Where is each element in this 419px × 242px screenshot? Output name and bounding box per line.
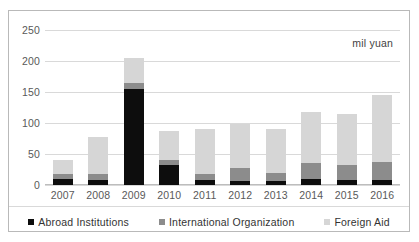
x-axis-tick-label: 2012 [223,189,259,201]
x-axis-tick-label: 2015 [329,189,365,201]
x-axis-tick-label: 2014 [294,189,330,201]
legend-item[interactable]: Foreign Aid [324,216,389,228]
legend-item-label: Foreign Aid [334,216,389,228]
bar-segment[interactable] [337,165,357,180]
bar-segment[interactable] [301,112,321,163]
x-axis-tick-label: 2009 [116,189,152,201]
y-axis-tick-label: 200 [22,55,40,67]
bar-segment[interactable] [195,180,215,185]
x-axis-tick-label: 2011 [187,189,223,201]
y-axis-tick-label: 50 [28,148,40,160]
bar-segment[interactable] [159,165,179,185]
chart-legend: Abroad InstitutionsInternational Organiz… [9,206,409,234]
legend-item-label: International Organization [169,216,294,228]
x-axis-tick-label: 2013 [258,189,294,201]
y-axis-tick-label: 150 [22,86,40,98]
bar-segment[interactable] [53,160,73,174]
chart-container: mil yuan 050100150200250 200720082009201… [8,10,410,232]
bar-column[interactable] [372,95,392,185]
bar-segment[interactable] [159,131,179,160]
bar-segment[interactable] [88,137,108,174]
bar-segment[interactable] [230,124,250,167]
bar-column[interactable] [230,124,250,185]
plot-area: 050100150200250 [45,30,400,185]
bar-segment[interactable] [372,162,392,180]
bar-segment[interactable] [301,179,321,185]
legend-swatch-icon [28,219,34,225]
bar-segment[interactable] [372,180,392,185]
bar-segment[interactable] [124,58,144,83]
y-axis-tick-label: 250 [22,24,40,36]
bar-column[interactable] [88,137,108,185]
bar-column[interactable] [266,129,286,185]
legend-item[interactable]: International Organization [159,216,294,228]
bar-column[interactable] [195,129,215,185]
gridline [45,92,400,93]
bar-column[interactable] [301,112,321,185]
legend-swatch-icon [159,219,165,225]
y-axis-tick-label: 100 [22,117,40,129]
x-axis-tick-labels: 2007200820092010201120122013201420152016 [45,187,400,205]
legend-swatch-icon [324,219,330,225]
legend-item[interactable]: Abroad Institutions [28,216,129,228]
bar-column[interactable] [159,131,179,185]
y-axis-tick-label: 0 [34,179,40,191]
bar-segment[interactable] [230,181,250,185]
x-axis-tick-label: 2008 [81,189,117,201]
bar-segment[interactable] [372,95,392,162]
gridline [45,30,400,31]
bar-segment[interactable] [337,114,357,165]
gridline [45,61,400,62]
bar-column[interactable] [53,160,73,185]
bar-segment[interactable] [195,129,215,175]
bar-segment[interactable] [124,89,144,185]
bar-segment[interactable] [266,173,286,180]
bar-column[interactable] [337,114,357,185]
bar-column[interactable] [124,58,144,185]
legend-item-label: Abroad Institutions [38,216,129,228]
bar-segment[interactable] [301,163,321,179]
bar-segment[interactable] [266,181,286,185]
x-axis-tick-label: 2010 [152,189,188,201]
bar-segment[interactable] [230,168,250,181]
bar-segment[interactable] [266,129,286,174]
gridline [45,185,400,186]
bar-segment[interactable] [88,180,108,185]
x-axis-tick-label: 2007 [45,189,81,201]
bar-segment[interactable] [337,180,357,185]
bar-segment[interactable] [53,179,73,185]
x-axis-tick-label: 2016 [365,189,401,201]
